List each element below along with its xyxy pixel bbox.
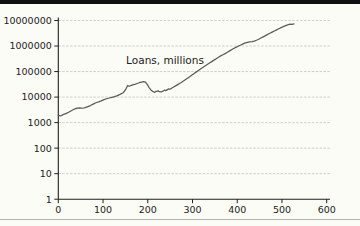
x-axis-tick-label: 200	[139, 204, 157, 215]
y-axis-tick-label: 100	[34, 143, 52, 154]
y-axis-tick-label: 10000000	[3, 15, 51, 26]
y-axis-tick-label: 100000	[16, 66, 52, 77]
series-label: Loans, millions	[126, 54, 204, 66]
gridlines	[58, 20, 330, 173]
axes	[58, 18, 330, 200]
x-axis-tick-label: 300	[183, 204, 201, 215]
figure-page: 110100100010000100000100000010000000 010…	[0, 0, 360, 226]
y-axis-tick-label: 1000	[28, 117, 52, 128]
y-axis-tick-label: 1000000	[9, 40, 51, 51]
loans-series-polyline	[58, 24, 294, 116]
x-axis-tick-label: 500	[273, 204, 291, 215]
data-series-line	[58, 24, 294, 116]
y-axis-tick-label: 10	[40, 168, 52, 179]
y-axis-tick-labels: 110100100010000100000100000010000000	[3, 15, 51, 205]
y-axis-tick-label: 1	[46, 194, 52, 205]
x-axis-tick-label: 600	[318, 204, 336, 215]
x-axis-tick-label: 400	[228, 204, 246, 215]
y-axis-tick-label: 10000	[22, 91, 52, 102]
bottom-rule	[0, 219, 360, 220]
tick-marks	[54, 20, 326, 203]
x-axis-tick-label: 0	[55, 204, 61, 215]
x-axis-tick-labels: 0100200300400500600	[55, 204, 335, 215]
x-axis-tick-label: 100	[94, 204, 112, 215]
loans-line-chart: 110100100010000100000100000010000000 010…	[0, 0, 360, 226]
